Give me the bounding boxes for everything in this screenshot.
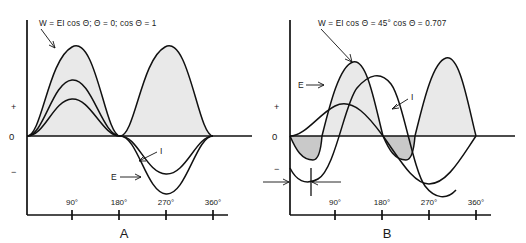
x-tick-label-90: 90°	[66, 198, 78, 207]
curve-label-i: I	[411, 92, 413, 102]
y-axis-negative-label: −	[11, 167, 16, 177]
curve-label-e: E	[298, 80, 304, 90]
equation-leader-line	[321, 29, 352, 62]
x-tick-label-90: 90°	[329, 198, 341, 207]
x-tick-label-180: 180°	[111, 198, 128, 207]
power-waveform-figure: W = EI cos Θ; Θ = 0; cos Θ = 1 + 0 − 90°…	[0, 0, 526, 243]
y-axis-positive-label: +	[11, 102, 16, 112]
y-axis-negative-label: −	[274, 164, 279, 174]
equation-leader-line	[41, 29, 55, 48]
panel-a: W = EI cos Θ; Θ = 0; cos Θ = 1 + 0 − 90°…	[0, 0, 263, 243]
panel-b-plot: W = EI cos Θ = 45° cos Θ = 0.707 + 0 − 9…	[263, 0, 526, 243]
x-tick-label-270: 270°	[158, 198, 175, 207]
x-tick-label-180: 180°	[374, 198, 391, 207]
y-axis-zero-label: 0	[272, 131, 277, 142]
x-tick-label-360: 360°	[205, 198, 222, 207]
panel-a-plot: W = EI cos Θ; Θ = 0; cos Θ = 1 + 0 − 90°…	[0, 0, 263, 243]
equation-label-a: W = EI cos Θ; Θ = 0; cos Θ = 1	[39, 19, 157, 28]
panel-label-a: A	[120, 226, 129, 241]
x-tick-label-270: 270°	[421, 198, 438, 207]
equation-label-b: W = EI cos Θ = 45° cos Θ = 0.707	[318, 19, 447, 28]
curve-label-i: I	[160, 146, 162, 156]
shaded-positive-power-region	[120, 46, 213, 136]
panel-b: W = EI cos Θ = 45° cos Θ = 0.707 + 0 − 9…	[263, 0, 526, 243]
y-axis-positive-label: +	[274, 102, 279, 112]
x-tick-label-360: 360°	[468, 198, 485, 207]
y-axis-zero-label: 0	[9, 131, 14, 142]
curve-label-e: E	[111, 172, 117, 182]
panel-label-b: B	[383, 226, 392, 241]
